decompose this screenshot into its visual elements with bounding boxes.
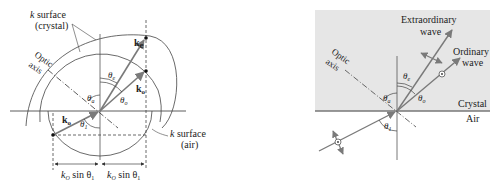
k0-vector (53, 112, 98, 135)
birefringence-diagram: k surface (crystal) Optic axis ke ko ko … (0, 0, 502, 184)
label-theta-o: θo (120, 95, 127, 106)
ordinary-polarization-dot (441, 73, 443, 75)
arc-theta-o (100, 82, 122, 92)
label-theta-a: θa (87, 93, 94, 104)
label-air-paren: (air) (181, 139, 198, 151)
label-crystal-paren: (crystal) (35, 20, 68, 32)
label-ko: ko (136, 83, 146, 96)
label-theta-e: θe (108, 70, 115, 81)
label-k-surface-crystal: k surface (30, 9, 66, 20)
label-extraordinary: Extraordinary (401, 14, 457, 25)
label-ordinary: Ordinary (453, 46, 489, 57)
label-theta-1-right: θ1 (384, 121, 391, 132)
pointer-air (152, 129, 168, 136)
incident-ray (319, 112, 395, 151)
label-ordinary-wave: wave (462, 57, 484, 68)
label-theta-1: θ1 (80, 119, 87, 130)
label-dim-right: kO sin θ1 (107, 169, 140, 181)
label-crystal: Crystal (458, 98, 487, 109)
label-k-surface-air: k surface (170, 128, 206, 139)
right-refraction-diagram (315, 10, 490, 160)
label-k0: ko (62, 114, 72, 127)
label-air: Air (466, 113, 480, 124)
label-extraordinary-wave: wave (420, 26, 442, 37)
left-k-surface-diagram (10, 20, 186, 170)
label-dim-left: kO sin θ1 (61, 169, 94, 181)
point-ke (144, 36, 148, 40)
label-ke: ke (134, 37, 144, 50)
point-ko (144, 69, 148, 73)
incident-polarization-dot (337, 141, 339, 143)
point-k0 (51, 133, 55, 137)
